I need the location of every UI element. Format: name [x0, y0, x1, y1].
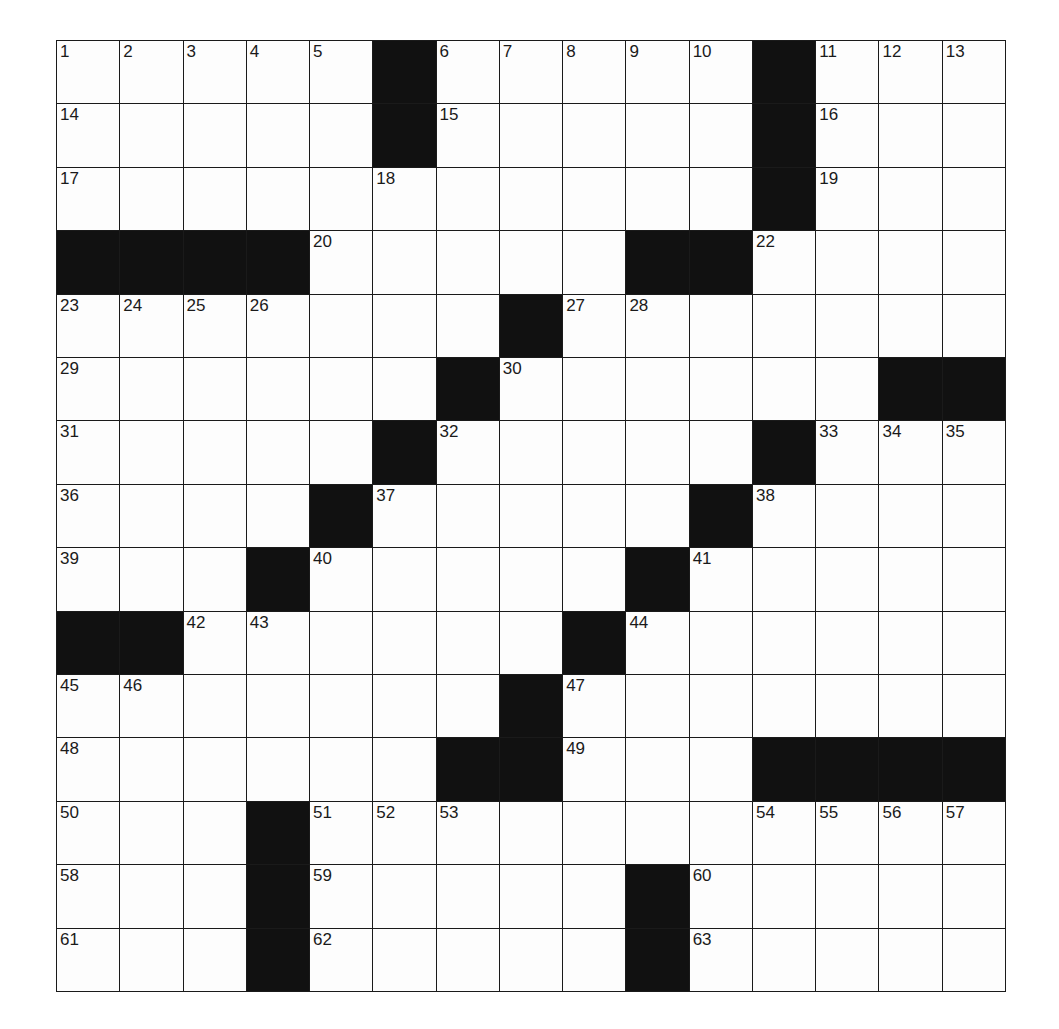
- grid-cell[interactable]: 22: [753, 231, 815, 293]
- grid-cell[interactable]: [690, 358, 752, 420]
- grid-cell[interactable]: [373, 612, 435, 674]
- grid-cell[interactable]: [879, 929, 941, 991]
- grid-cell[interactable]: [120, 421, 182, 483]
- grid-cell[interactable]: [816, 295, 878, 357]
- grid-cell[interactable]: 2: [120, 41, 182, 103]
- grid-cell[interactable]: 39: [57, 548, 119, 610]
- grid-cell[interactable]: 25: [184, 295, 246, 357]
- grid-cell[interactable]: [563, 802, 625, 864]
- grid-cell[interactable]: 41: [690, 548, 752, 610]
- grid-cell[interactable]: [943, 231, 1005, 293]
- grid-cell[interactable]: [500, 929, 562, 991]
- grid-cell[interactable]: [310, 104, 372, 166]
- grid-cell[interactable]: [943, 548, 1005, 610]
- grid-cell[interactable]: [816, 675, 878, 737]
- grid-cell[interactable]: [500, 485, 562, 547]
- grid-cell[interactable]: 23: [57, 295, 119, 357]
- grid-cell[interactable]: [626, 675, 688, 737]
- grid-cell[interactable]: [373, 295, 435, 357]
- grid-cell[interactable]: 55: [816, 802, 878, 864]
- grid-cell[interactable]: 51: [310, 802, 372, 864]
- grid-cell[interactable]: 40: [310, 548, 372, 610]
- grid-cell[interactable]: [500, 865, 562, 927]
- grid-cell[interactable]: [373, 231, 435, 293]
- grid-cell[interactable]: [500, 612, 562, 674]
- grid-cell[interactable]: [437, 865, 499, 927]
- grid-cell[interactable]: [500, 802, 562, 864]
- grid-cell[interactable]: 20: [310, 231, 372, 293]
- grid-cell[interactable]: [184, 929, 246, 991]
- grid-cell[interactable]: [120, 929, 182, 991]
- grid-cell[interactable]: [120, 865, 182, 927]
- grid-cell[interactable]: [563, 168, 625, 230]
- grid-cell[interactable]: [184, 168, 246, 230]
- grid-cell[interactable]: [120, 548, 182, 610]
- grid-cell[interactable]: [816, 358, 878, 420]
- grid-cell[interactable]: [626, 104, 688, 166]
- grid-cell[interactable]: [563, 865, 625, 927]
- grid-cell[interactable]: [943, 168, 1005, 230]
- grid-cell[interactable]: [943, 295, 1005, 357]
- grid-cell[interactable]: [816, 865, 878, 927]
- grid-cell[interactable]: 62: [310, 929, 372, 991]
- grid-cell[interactable]: [753, 865, 815, 927]
- grid-cell[interactable]: [437, 929, 499, 991]
- grid-cell[interactable]: [563, 421, 625, 483]
- grid-cell[interactable]: [310, 421, 372, 483]
- grid-cell[interactable]: [879, 295, 941, 357]
- grid-cell[interactable]: 10: [690, 41, 752, 103]
- grid-cell[interactable]: 50: [57, 802, 119, 864]
- grid-cell[interactable]: [247, 421, 309, 483]
- grid-cell[interactable]: 16: [816, 104, 878, 166]
- grid-cell[interactable]: 46: [120, 675, 182, 737]
- grid-cell[interactable]: [373, 738, 435, 800]
- grid-cell[interactable]: 17: [57, 168, 119, 230]
- grid-cell[interactable]: 43: [247, 612, 309, 674]
- grid-cell[interactable]: [563, 548, 625, 610]
- grid-cell[interactable]: [879, 675, 941, 737]
- grid-cell[interactable]: 57: [943, 802, 1005, 864]
- grid-cell[interactable]: 61: [57, 929, 119, 991]
- grid-cell[interactable]: 6: [437, 41, 499, 103]
- grid-cell[interactable]: [310, 612, 372, 674]
- grid-cell[interactable]: [247, 485, 309, 547]
- grid-cell[interactable]: 12: [879, 41, 941, 103]
- grid-cell[interactable]: [690, 168, 752, 230]
- grid-cell[interactable]: [943, 485, 1005, 547]
- grid-cell[interactable]: [816, 929, 878, 991]
- grid-cell[interactable]: [690, 802, 752, 864]
- grid-cell[interactable]: 24: [120, 295, 182, 357]
- grid-cell[interactable]: [120, 168, 182, 230]
- grid-cell[interactable]: 5: [310, 41, 372, 103]
- grid-cell[interactable]: [184, 358, 246, 420]
- grid-cell[interactable]: [184, 548, 246, 610]
- grid-cell[interactable]: [753, 612, 815, 674]
- grid-cell[interactable]: [943, 104, 1005, 166]
- grid-cell[interactable]: 53: [437, 802, 499, 864]
- grid-cell[interactable]: [437, 231, 499, 293]
- grid-cell[interactable]: [120, 738, 182, 800]
- grid-cell[interactable]: 32: [437, 421, 499, 483]
- grid-cell[interactable]: [816, 548, 878, 610]
- grid-cell[interactable]: [184, 865, 246, 927]
- grid-cell[interactable]: 13: [943, 41, 1005, 103]
- grid-cell[interactable]: [310, 738, 372, 800]
- grid-cell[interactable]: [753, 548, 815, 610]
- grid-cell[interactable]: [500, 168, 562, 230]
- grid-cell[interactable]: [879, 231, 941, 293]
- grid-cell[interactable]: [690, 295, 752, 357]
- grid-cell[interactable]: [816, 485, 878, 547]
- grid-cell[interactable]: [879, 104, 941, 166]
- grid-cell[interactable]: [247, 675, 309, 737]
- grid-cell[interactable]: 4: [247, 41, 309, 103]
- grid-cell[interactable]: [437, 675, 499, 737]
- grid-cell[interactable]: [816, 612, 878, 674]
- grid-cell[interactable]: [753, 295, 815, 357]
- grid-cell[interactable]: 42: [184, 612, 246, 674]
- grid-cell[interactable]: [437, 612, 499, 674]
- grid-cell[interactable]: [184, 485, 246, 547]
- grid-cell[interactable]: [626, 358, 688, 420]
- grid-cell[interactable]: [879, 168, 941, 230]
- grid-cell[interactable]: [943, 865, 1005, 927]
- grid-cell[interactable]: [373, 358, 435, 420]
